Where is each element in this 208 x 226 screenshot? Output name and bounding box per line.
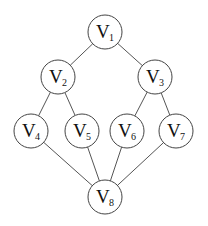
node-label: V — [96, 21, 110, 42]
node-v4: V4 — [14, 114, 48, 148]
edge-v7-v8 — [117, 143, 163, 186]
node-subscript: 4 — [35, 131, 40, 142]
edge-v3-v6 — [135, 92, 147, 116]
node-subscript: 6 — [131, 131, 136, 142]
node-label: V — [96, 186, 110, 207]
node-v6: V6 — [110, 114, 144, 148]
node-subscript: 3 — [159, 77, 164, 88]
node-label: V — [146, 66, 160, 87]
node-v3: V3 — [138, 60, 172, 94]
node-v2: V2 — [41, 60, 75, 94]
node-subscript: 1 — [109, 32, 114, 43]
node-subscript: 2 — [62, 77, 67, 88]
node-label: V — [118, 120, 132, 141]
node-label: V — [22, 120, 36, 141]
edge-v2-v4 — [39, 92, 51, 116]
node-label: V — [73, 120, 87, 141]
node-v7: V7 — [159, 114, 193, 148]
graph-svg: V1V2V3V4V5V6V7V8 — [0, 0, 208, 226]
edge-v3-v7 — [161, 93, 170, 115]
node-subscript: 7 — [180, 131, 185, 142]
edge-v1-v3 — [118, 43, 143, 65]
node-subscript: 8 — [109, 197, 114, 208]
node-v8: V8 — [88, 180, 122, 214]
node-label: V — [167, 120, 181, 141]
edge-v2-v5 — [65, 93, 75, 116]
nodes-layer: V1V2V3V4V5V6V7V8 — [14, 15, 193, 214]
node-label: V — [49, 66, 63, 87]
edge-v4-v8 — [44, 142, 93, 185]
node-subscript: 5 — [86, 131, 91, 142]
node-v1: V1 — [88, 15, 122, 49]
edge-v6-v8 — [110, 147, 121, 181]
edge-v5-v8 — [88, 147, 100, 181]
edge-v1-v2 — [70, 44, 92, 65]
graph-diagram: V1V2V3V4V5V6V7V8 — [0, 0, 208, 226]
node-v5: V5 — [65, 114, 99, 148]
